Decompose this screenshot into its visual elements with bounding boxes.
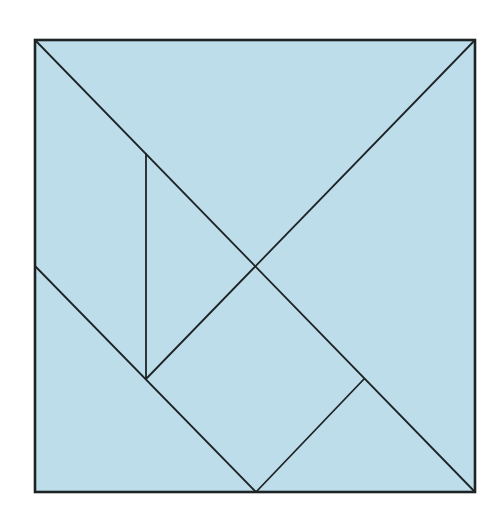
tangram-svg	[0, 0, 503, 524]
tangram-diagram	[0, 0, 503, 524]
